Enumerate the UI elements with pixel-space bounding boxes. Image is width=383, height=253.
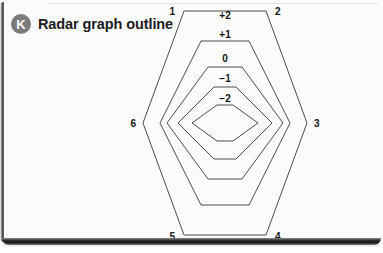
section-badge-icon: K — [11, 14, 31, 34]
screenshot-root: K Radar graph outline +2 +1 0 −1 −2 1 2 … — [0, 0, 383, 253]
page-edge-left — [0, 2, 4, 242]
page-edge-bottom-shadow — [4, 244, 379, 247]
page-header: K Radar graph outline — [11, 14, 173, 34]
page-title: Radar graph outline — [38, 16, 173, 32]
page-surface — [3, 0, 381, 243]
top-rule-divider — [48, 3, 378, 4]
